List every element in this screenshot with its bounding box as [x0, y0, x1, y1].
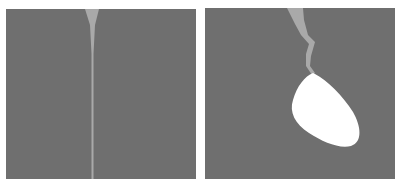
crack-wedge — [85, 9, 99, 179]
crack-cavity-illustration — [205, 8, 395, 179]
crack-wedge-illustration — [6, 9, 196, 179]
jagged-crack — [287, 8, 315, 75]
left-panel — [6, 9, 196, 179]
elliptical-cavity — [292, 73, 360, 147]
right-panel — [205, 8, 395, 179]
